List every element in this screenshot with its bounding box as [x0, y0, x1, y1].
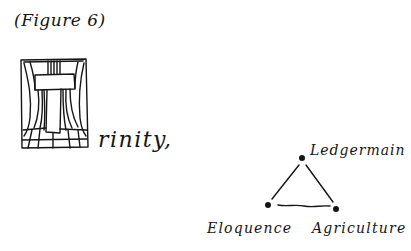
edge-top-left [272, 165, 299, 199]
edge-bottom [278, 205, 330, 207]
node-top-dot [299, 155, 305, 161]
node-label-bottom-left: Eloquence [207, 220, 292, 236]
node-right-dot [333, 206, 339, 212]
node-label-bottom-right: Agriculture [312, 220, 406, 236]
node-label-top: Ledgermain [310, 142, 406, 158]
node-left-dot [265, 202, 271, 208]
edge-top-right [306, 165, 333, 202]
triangle-diagram [0, 0, 411, 251]
